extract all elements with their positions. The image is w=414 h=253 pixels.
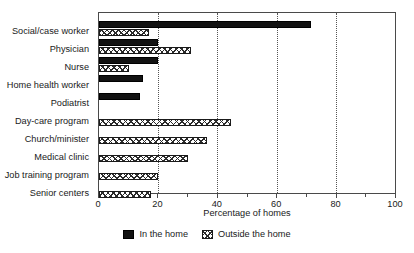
x-axis-title: Percentage of homes [98,208,396,218]
bar [99,39,158,46]
bar [99,57,158,64]
legend-item-outside-the-home: Outside the home [202,229,291,239]
bar [99,93,140,100]
bar [99,137,207,144]
cross-hatch-swatch-icon [202,230,213,239]
axis-minor-tick [365,194,366,197]
plot-area [98,12,396,194]
axis-minor-tick [128,194,129,197]
category-label: Job training program [0,170,89,180]
axis-minor-tick [247,194,248,197]
category-label: Nurse [0,62,89,72]
axis-tick [217,194,218,198]
axis-minor-tick [187,194,188,197]
category-label: Physician [0,44,89,54]
legend-item-in-the-home: In the home [123,229,188,239]
gridline-40 [217,13,218,193]
bar [99,75,143,82]
category-axis-labels: Social/case worker Physician Nurse Home … [0,12,93,194]
axis-tick [98,194,99,198]
chart-legend: In the home Outside the home [0,229,414,239]
bar [99,47,191,54]
bar-chart: Social/case worker Physician Nurse Home … [0,0,414,253]
category-label: Social/case worker [0,26,89,36]
bar [99,21,311,28]
bar [99,173,158,180]
category-label: Medical clinic [0,152,89,162]
bar [99,65,129,72]
category-label: Home health worker [0,80,89,90]
gridline-60 [277,13,278,193]
bar [99,155,188,162]
legend-label: Outside the home [218,229,291,239]
axis-tick [157,194,158,198]
solid-black-swatch-icon [123,230,134,239]
axis-minor-tick [306,194,307,197]
bar [99,29,149,36]
category-label: Podiatrist [0,98,89,108]
axis-tick [336,194,337,198]
axis-tick [276,194,277,198]
category-label: Senior centers [0,188,89,198]
gridline-80 [336,13,337,193]
gridline-20 [158,13,159,193]
bar [99,119,231,126]
category-label: Day-care program [0,116,89,126]
legend-label: In the home [139,229,188,239]
axis-tick [395,194,396,198]
category-label: Church/minister [0,134,89,144]
